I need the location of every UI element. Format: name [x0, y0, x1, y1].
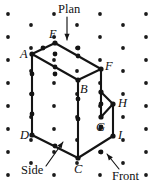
- lattice-dot: [144, 58, 148, 62]
- lattice-dot: [98, 35, 102, 39]
- vertex-label-g: G: [96, 120, 105, 134]
- lattice-dot: [121, 46, 125, 50]
- lattice-dot: [144, 150, 148, 154]
- lattice-dot: [6, 81, 10, 85]
- vertex-dot-t: [98, 89, 103, 94]
- lattice-dot: [121, 69, 125, 73]
- lattice-dot: [144, 81, 148, 85]
- edge-node: [76, 117, 81, 122]
- annotation-label-side: Side: [21, 163, 44, 177]
- lattice-dot: [75, 69, 79, 73]
- lattice-dot: [6, 104, 10, 108]
- vertex-label-c: C: [74, 162, 83, 176]
- vertex-label-d: D: [19, 128, 29, 142]
- lattice-dot: [144, 173, 148, 177]
- edge-node: [76, 46, 81, 51]
- edge-node: [41, 46, 46, 51]
- edge-node: [30, 112, 35, 117]
- vertex-dot-g: [98, 114, 103, 119]
- lattice-dot: [98, 58, 102, 62]
- isometric-figure: ABCDEFGHI PlanSideFront: [0, 0, 156, 184]
- edge-node: [76, 97, 81, 102]
- edge-node: [30, 72, 35, 77]
- lattice-dot: [144, 104, 148, 108]
- lattice-dot: [6, 150, 10, 154]
- annotation-label-front: Front: [112, 169, 140, 183]
- vertex-label-i: I: [117, 128, 123, 142]
- lattice-dot: [144, 35, 148, 39]
- edge-node: [99, 150, 104, 155]
- vertex-dot-h: [110, 101, 115, 106]
- edge-node: [30, 92, 35, 97]
- edge-node: [53, 65, 58, 70]
- lattice-dot: [6, 173, 10, 177]
- annotation-label-plan: Plan: [58, 2, 81, 16]
- lattice-dot: [6, 35, 10, 39]
- lattice-dot: [52, 58, 56, 62]
- vertex-dot-d: [29, 132, 34, 137]
- lattice-dot: [144, 127, 148, 131]
- edge-node: [76, 54, 81, 59]
- lattice-dot: [98, 12, 102, 16]
- vertex-label-a: A: [19, 47, 28, 61]
- vertex-label-f: F: [104, 59, 113, 73]
- lattice-dot: [75, 23, 79, 27]
- lattice-dot: [144, 12, 148, 16]
- lattice-dot: [6, 12, 10, 16]
- lattice-dot: [6, 127, 10, 131]
- lattice-dot: [29, 46, 33, 50]
- vertex-dot-f: [98, 66, 103, 71]
- lattice-dot: [29, 23, 33, 27]
- lattice-dot: [52, 104, 56, 108]
- lattice-dot: [121, 161, 125, 165]
- lattice-dot: [121, 23, 125, 27]
- vertex-dot-a: [29, 51, 34, 56]
- edge-node: [53, 72, 58, 77]
- edge-node: [53, 52, 58, 57]
- lattice-dot: [52, 12, 56, 16]
- lattice-dot: [121, 115, 125, 119]
- edge-node: [53, 144, 58, 149]
- vertex-label-b: B: [80, 82, 88, 96]
- lattice-dot: [98, 173, 102, 177]
- vertex-label-h: H: [117, 96, 128, 110]
- vertex-label-e: E: [48, 27, 57, 41]
- lattice-dot: [52, 127, 56, 131]
- vertex-dot-e: [52, 40, 57, 45]
- edge-node: [99, 102, 104, 107]
- lattice-dot: [52, 81, 56, 85]
- lattice-dot: [52, 173, 56, 177]
- lattice-dot: [6, 58, 10, 62]
- isometric-drawing-canvas: ABCDEFGHI PlanSideFront: [0, 0, 156, 184]
- lattice-dot: [29, 138, 33, 142]
- vertex-dot-i: [110, 133, 115, 138]
- vertex-dot-c: [75, 155, 80, 160]
